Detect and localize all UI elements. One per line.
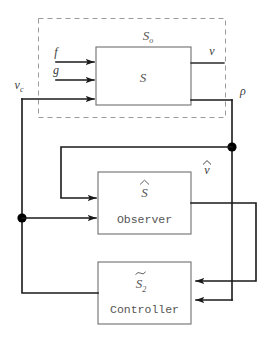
outer-system-subscript: o xyxy=(149,36,153,45)
controller-symbol-subscript: 2 xyxy=(142,285,146,294)
signal-label-vc-subscript: c xyxy=(20,85,24,94)
signal-label-vhat: v xyxy=(203,161,211,177)
block-diagram-svg: So S S Observer S2 Controller f g vc xyxy=(0,0,273,341)
signal-label-rho: ρ xyxy=(239,84,246,98)
signal-label-v: v xyxy=(209,44,215,58)
signal-label-vc: vc xyxy=(15,78,24,94)
observer-symbol-glyph: S xyxy=(141,185,148,200)
outer-system-label: So xyxy=(143,28,154,45)
signal-label-f: f xyxy=(54,45,59,59)
observer-block-caption: Observer xyxy=(117,213,172,226)
vhat-to-controller xyxy=(191,203,256,281)
signal-label-g: g xyxy=(53,63,59,77)
controller-output-left-rail xyxy=(22,99,98,293)
controller-block-caption: Controller xyxy=(110,303,179,316)
signal-label-vhat-glyph: v xyxy=(204,163,210,177)
plant-block-symbol: S xyxy=(140,70,147,85)
block-diagram-canvas: So S S Observer S2 Controller f g vc xyxy=(0,0,273,341)
